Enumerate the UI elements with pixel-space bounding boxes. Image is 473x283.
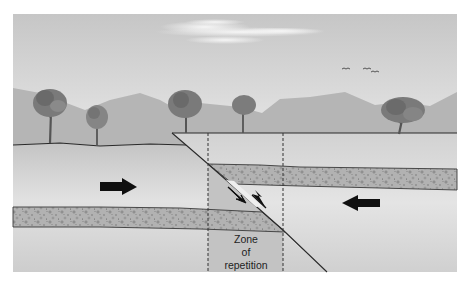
zone-label-line1: Zone bbox=[234, 233, 258, 245]
zone-label-line3: repetition bbox=[224, 259, 267, 271]
thrust-fault-diagram: Zone of repetition bbox=[0, 0, 473, 283]
zone-label-line2: of bbox=[242, 246, 251, 258]
